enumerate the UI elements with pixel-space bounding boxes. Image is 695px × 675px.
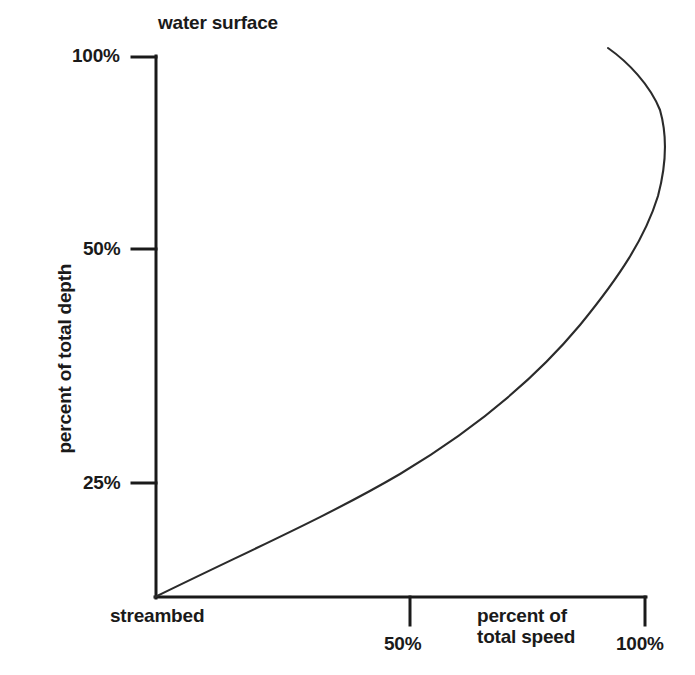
- y-tick-label-25: 25%: [83, 472, 120, 493]
- axes-group: [155, 56, 646, 598]
- x-tick-label-50: 50%: [384, 633, 421, 654]
- x-axis-title-line-1: percent of: [477, 605, 567, 626]
- stream-velocity-profile-chart: water surface 100% 50% 25% streambed 50%…: [0, 0, 695, 675]
- chart-canvas: [0, 0, 695, 675]
- y-tick-label-100: 100%: [72, 45, 120, 66]
- x-axis-title: percent oftotal speed: [477, 605, 575, 648]
- y-axis-ticks: [132, 57, 156, 483]
- x-axis-title-line-2: total speed: [477, 626, 575, 647]
- water-surface-label: water surface: [158, 12, 278, 33]
- y-tick-label-50: 50%: [83, 238, 120, 259]
- x-tick-label-100: 100%: [616, 633, 664, 654]
- y-axis-title: percent of total depth: [54, 229, 75, 489]
- velocity-profile-curve: [155, 48, 665, 597]
- streambed-label: streambed: [110, 605, 204, 626]
